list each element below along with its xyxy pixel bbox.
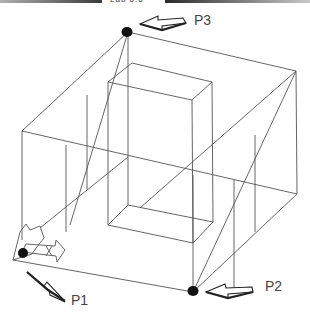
point-p3[interactable] [122,27,133,37]
outer-box [13,32,297,292]
point-p2[interactable] [188,286,199,296]
label-p2: P2 [265,278,282,294]
arrow-p3-icon [140,16,186,30]
label-p1: P1 [71,292,88,308]
wireframe-diagram [0,0,310,313]
arrow-p1-icon [27,272,65,302]
arrow-p2-icon [206,284,253,298]
point-p1[interactable] [18,248,28,258]
label-p3: P3 [194,12,211,28]
inner-block [108,63,213,243]
